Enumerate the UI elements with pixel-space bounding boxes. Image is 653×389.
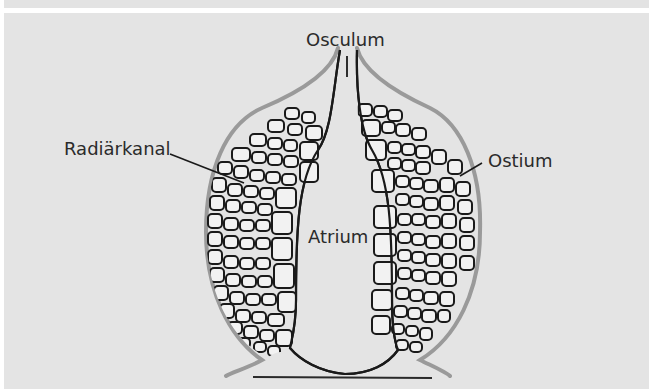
label-atrium: Atrium	[308, 228, 368, 246]
sponge-diagram	[0, 0, 653, 389]
label-radial-canal: Radiärkanal	[64, 140, 171, 158]
label-osculum: Osculum	[306, 31, 385, 49]
label-ostium: Ostium	[488, 152, 553, 170]
base-line	[253, 377, 432, 378]
right-wall-chambers	[358, 104, 474, 352]
